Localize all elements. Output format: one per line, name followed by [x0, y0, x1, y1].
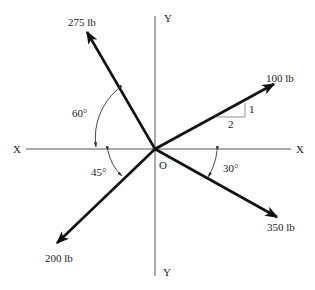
- y-axis-bottom-label: Y: [163, 266, 171, 278]
- origin-point: [153, 147, 157, 151]
- angle-arc-60: [95, 89, 118, 147]
- force-label-100: 100 lb: [266, 72, 294, 84]
- slope-triangle: [217, 103, 245, 117]
- force-label-350: 350 lb: [267, 221, 295, 233]
- origin-label: O: [159, 159, 167, 171]
- slope-rise-label: 1: [249, 103, 255, 115]
- y-axis-top-label: Y: [164, 12, 172, 24]
- x-axis-left-label: X: [13, 143, 21, 155]
- force-arrow-100: [155, 84, 274, 149]
- angle-label-30: 30°: [223, 162, 238, 174]
- angle-arc-30: [208, 151, 217, 177]
- x-axis-right-label: X: [296, 143, 304, 155]
- angle-label-45: 45°: [91, 166, 106, 178]
- force-diagram: X X Y Y O 275 lb 100 lb 200 lb 350 lb 1 …: [0, 0, 315, 290]
- force-arrow-200: [57, 149, 155, 243]
- angle-label-60: 60°: [72, 107, 87, 119]
- angle-arc-45: [108, 151, 122, 176]
- force-label-275: 275 lb: [68, 16, 96, 28]
- force-arrow-275: [87, 32, 155, 149]
- slope-run-label: 2: [228, 118, 234, 130]
- force-label-200: 200 lb: [45, 252, 73, 264]
